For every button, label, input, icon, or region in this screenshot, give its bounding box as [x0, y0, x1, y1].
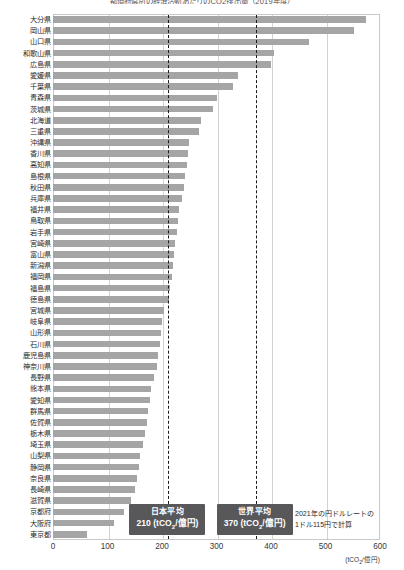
bar-北海道 — [53, 117, 201, 124]
x-tick-300: 300 — [210, 542, 224, 551]
bar-row: 愛知県 — [0, 395, 404, 406]
category-label-徳島県: 徳島県 — [5, 294, 53, 305]
category-label-佐賀県: 佐賀県 — [5, 417, 53, 428]
bar-row: 愛媛県 — [0, 70, 404, 81]
category-label-秋田県: 秋田県 — [5, 182, 53, 193]
category-label-香川県: 香川県 — [5, 148, 53, 159]
x-tick-200: 200 — [155, 542, 169, 551]
bar-row: 石川県 — [0, 339, 404, 350]
bar-row: 和歌山県 — [0, 48, 404, 59]
bar-row: 福島県 — [0, 283, 404, 294]
category-label-長野県: 長野県 — [5, 372, 53, 383]
exchange-rate-note-line1: 2021年の円ドルレートの — [295, 509, 374, 520]
bar-row: 鹿児島県 — [0, 350, 404, 361]
bar-鳥取県 — [53, 218, 178, 225]
bar-福岡県 — [53, 274, 172, 281]
category-label-兵庫県: 兵庫県 — [5, 193, 53, 204]
category-label-福井県: 福井県 — [5, 204, 53, 215]
category-label-群馬県: 群馬県 — [5, 406, 53, 417]
category-label-岐阜県: 岐阜県 — [5, 316, 53, 327]
category-label-愛知県: 愛知県 — [5, 395, 53, 406]
bar-row: 高知県 — [0, 159, 404, 170]
category-label-島根県: 島根県 — [5, 171, 53, 182]
category-label-青森県: 青森県 — [5, 92, 53, 103]
bar-row: 宮崎県 — [0, 238, 404, 249]
category-label-大分県: 大分県 — [5, 14, 53, 25]
category-label-京都府: 京都府 — [5, 506, 53, 517]
bar-row: 沖縄県 — [0, 137, 404, 148]
bar-row: 福岡県 — [0, 271, 404, 282]
bar-row: 奈良県 — [0, 473, 404, 484]
category-label-新潟県: 新潟県 — [5, 260, 53, 271]
bar-静岡県 — [53, 464, 139, 471]
bar-rows: 大分県岡山県山口県和歌山県広島県愛媛県千葉県青森県茨城県北海道三重県沖縄県香川県… — [0, 14, 404, 540]
bar-row: 千葉県 — [0, 81, 404, 92]
bar-row: 富山県 — [0, 249, 404, 260]
category-label-滋賀県: 滋賀県 — [5, 495, 53, 506]
category-label-山口県: 山口県 — [5, 36, 53, 47]
bar-和歌山県 — [53, 50, 274, 57]
bar-row: 埼玉県 — [0, 439, 404, 450]
category-label-鳥取県: 鳥取県 — [5, 215, 53, 226]
category-label-岡山県: 岡山県 — [5, 25, 53, 36]
bar-京都府 — [53, 509, 124, 516]
category-label-北海道: 北海道 — [5, 115, 53, 126]
bar-兵庫県 — [53, 195, 182, 202]
bar-row: 熊本県 — [0, 383, 404, 394]
bar-row: 香川県 — [0, 148, 404, 159]
bar-row: 静岡県 — [0, 462, 404, 473]
bar-滋賀県 — [53, 497, 131, 504]
bar-石川県 — [53, 341, 160, 348]
bar-山形県 — [53, 330, 161, 337]
bar-三重県 — [53, 128, 199, 135]
bar-row: 広島県 — [0, 59, 404, 70]
exchange-rate-note: 2021年の円ドルレートの1ドル115円で計算 — [295, 509, 374, 531]
bar-row: 福井県 — [0, 204, 404, 215]
category-label-奈良県: 奈良県 — [5, 473, 53, 484]
category-label-宮崎県: 宮崎県 — [5, 238, 53, 249]
bar-愛知県 — [53, 397, 150, 404]
world-average-callout: 世界平均370 (tCO2/億円) — [217, 504, 293, 535]
bar-山梨県 — [53, 453, 140, 460]
bar-長野県 — [53, 374, 154, 381]
bar-群馬県 — [53, 408, 148, 415]
bar-佐賀県 — [53, 419, 147, 426]
bar-熊本県 — [53, 386, 151, 393]
bar-新潟県 — [53, 262, 173, 269]
category-label-茨城県: 茨城県 — [5, 104, 53, 115]
bar-岐阜県 — [53, 318, 162, 325]
bar-神奈川県 — [53, 363, 157, 370]
bar-row: 鳥取県 — [0, 215, 404, 226]
bar-row: 秋田県 — [0, 182, 404, 193]
japan-average-value: 210 (tCO2/億円) — [134, 518, 200, 531]
bar-chart: 都道府県別の経済活動あたりのCO2排出量（2019年度） 大分県岡山県山口県和歌… — [0, 0, 404, 570]
world-average-line — [256, 15, 257, 539]
category-label-高知県: 高知県 — [5, 159, 53, 170]
bar-row: 新潟県 — [0, 260, 404, 271]
x-axis-unit-label: (tCO2/億円) — [345, 554, 380, 565]
world-average-label: 世界平均 — [222, 507, 288, 517]
bar-岩手県 — [53, 229, 177, 236]
category-label-千葉県: 千葉県 — [5, 81, 53, 92]
category-label-石川県: 石川県 — [5, 339, 53, 350]
category-label-長崎県: 長崎県 — [5, 484, 53, 495]
bar-row: 長崎県 — [0, 484, 404, 495]
exchange-rate-note-line2: 1ドル115円で計算 — [295, 520, 374, 531]
category-label-東京都: 東京都 — [5, 529, 53, 540]
bar-宮崎県 — [53, 240, 175, 247]
bar-row: 兵庫県 — [0, 193, 404, 204]
bar-row: 佐賀県 — [0, 417, 404, 428]
bar-奈良県 — [53, 475, 137, 482]
bar-栃木県 — [53, 430, 145, 437]
bar-富山県 — [53, 251, 174, 258]
bar-row: 北海道 — [0, 115, 404, 126]
bar-広島県 — [53, 61, 271, 68]
category-label-福岡県: 福岡県 — [5, 271, 53, 282]
bar-row: 三重県 — [0, 126, 404, 137]
bar-宮城県 — [53, 307, 164, 314]
x-tick-100: 100 — [101, 542, 115, 551]
x-tick-400: 400 — [264, 542, 278, 551]
bar-row: 群馬県 — [0, 406, 404, 417]
bar-row: 栃木県 — [0, 428, 404, 439]
bar-埼玉県 — [53, 441, 143, 448]
